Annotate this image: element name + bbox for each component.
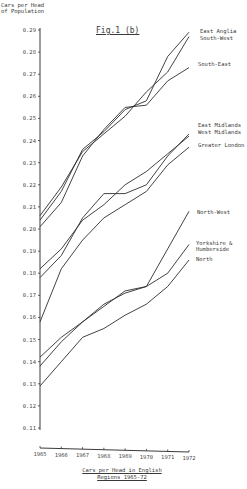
- x-axis-caption: Cars per Head in English Regions 1965-72: [62, 467, 182, 481]
- series-line-greater-london: [40, 147, 189, 322]
- caption-line2: Regions 1965-72: [62, 474, 182, 481]
- series-line-west-midlands: [40, 136, 189, 269]
- y-tick-label: 0.21: [23, 204, 36, 210]
- x-tick-label: 1969: [119, 453, 132, 459]
- y-tick-label: 0.14: [23, 359, 37, 365]
- y-tick-label: 0.29: [23, 27, 36, 33]
- series-label: East Anglia: [200, 28, 236, 35]
- x-tick-label: 1968: [97, 453, 110, 459]
- x-tick-label: 1965: [33, 451, 46, 457]
- y-tick-label: 0.26: [23, 93, 36, 99]
- x-tick-label: 1966: [55, 452, 68, 458]
- y-tick-label: 0.11: [23, 425, 36, 431]
- caption-line1: Cars per Head in English: [62, 467, 182, 474]
- series-label: Humberside: [196, 246, 229, 252]
- series-line-east-midlands: [40, 134, 189, 278]
- y-tick-label: 0.20: [23, 226, 36, 232]
- y-tick-label: 0.22: [23, 182, 36, 188]
- series-label: North: [196, 256, 213, 262]
- y-tick-label: 0.24: [23, 138, 37, 144]
- x-tick-label: 1967: [76, 452, 89, 458]
- series-label: Greater London: [198, 142, 244, 148]
- series-line-south-east: [40, 68, 189, 227]
- y-tick-label: 0.27: [23, 71, 36, 77]
- y-tick-label: 0.13: [23, 381, 36, 387]
- y-tick-label: 0.18: [23, 270, 36, 276]
- y-tick-label: 0.23: [23, 160, 36, 166]
- x-tick-label: 1972: [182, 455, 195, 461]
- y-tick-label: 0.16: [23, 314, 36, 320]
- series-line-east-anglia: [40, 32, 189, 220]
- y-tick-label: 0.25: [23, 115, 36, 121]
- series-line-north-west: [40, 211, 189, 357]
- x-tick-label: 1971: [161, 454, 174, 460]
- line-chart: 0.290.280.270.260.250.240.230.220.210.20…: [0, 0, 247, 489]
- series-line-north: [40, 260, 189, 386]
- series-label: South-East: [198, 61, 231, 67]
- y-tick-label: 0.15: [23, 337, 36, 343]
- series-label: West Midlands: [198, 129, 241, 135]
- series-line-yorkshire-humberside: [40, 245, 189, 367]
- series-label: South-West: [200, 35, 233, 41]
- y-tick-label: 0.17: [23, 292, 36, 298]
- series-label: North-West: [197, 209, 230, 215]
- y-tick-label: 0.19: [23, 248, 36, 254]
- x-tick-label: 1970: [140, 454, 153, 460]
- y-tick-label: 0.28: [23, 49, 36, 55]
- y-tick-label: 0.12: [23, 403, 36, 409]
- series-label: East Midlands: [198, 122, 241, 128]
